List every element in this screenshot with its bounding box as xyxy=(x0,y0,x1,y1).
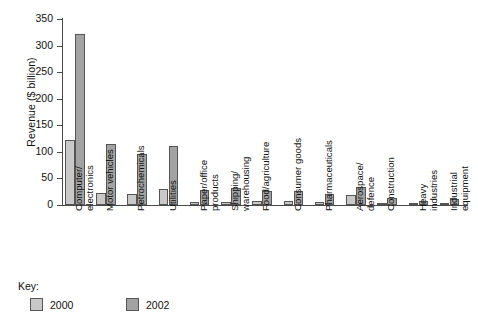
legend-entry-2002: 2002 xyxy=(126,298,169,311)
legend-entry-2000: 2000 xyxy=(30,298,73,311)
y-axis-tick-250: 250 xyxy=(57,72,62,73)
y-axis-tick-label: 0 xyxy=(47,198,53,210)
y-axis-tick-label: 100 xyxy=(35,145,53,157)
category-label-line2: equipment xyxy=(459,166,470,211)
category-label-line1: Shipping/ xyxy=(229,171,240,211)
category-label-10: Construction xyxy=(386,157,397,211)
y-axis-tick-150: 150 xyxy=(57,125,62,126)
y-axis-tick-label: 150 xyxy=(35,118,53,130)
category-label-3: Utilities xyxy=(168,180,179,211)
category-label-line1: Consumer goods xyxy=(292,138,303,211)
category-label-6: Food/agriculture xyxy=(261,142,272,211)
category-label-line1: Food/agriculture xyxy=(260,142,271,211)
category-label-line2: defence xyxy=(366,162,377,211)
category-label-11: Heavyindustries xyxy=(418,170,439,211)
category-label-8: Pharmaceuticals xyxy=(324,140,335,211)
category-label-12: Industrialequipment xyxy=(449,166,470,211)
legend-title: Key: xyxy=(18,280,39,292)
y-axis-tick-label: 350 xyxy=(35,12,53,24)
category-label-line2: industries xyxy=(428,170,439,211)
category-label-line1: Aerospace/ xyxy=(354,162,365,211)
y-axis-tick-100: 100 xyxy=(57,152,62,153)
category-label-2: Petrochemicals xyxy=(136,145,147,211)
legend-label: 2002 xyxy=(146,299,169,311)
legend-label: 2000 xyxy=(50,299,73,311)
y-axis-line xyxy=(62,18,63,206)
category-label-line1: Paper/office xyxy=(198,160,209,211)
y-axis-tick-0: 0 xyxy=(57,205,62,206)
y-axis-tick-350: 350 xyxy=(57,19,62,20)
category-label-line1: Pharmaceuticals xyxy=(323,140,334,211)
y-axis-tick-300: 300 xyxy=(57,46,62,47)
dark-gray-swatch xyxy=(126,298,139,311)
category-label-line1: Construction xyxy=(385,157,396,211)
y-axis-tick-label: 200 xyxy=(35,92,53,104)
category-label-line1: Industrial xyxy=(448,172,459,211)
category-label-9: Aerospace/defence xyxy=(355,162,376,211)
category-label-line2: products xyxy=(209,160,220,211)
category-label-line1: Petrochemicals xyxy=(135,145,146,211)
category-label-line2: warehousing xyxy=(241,157,252,211)
category-label-0: Computer/electronics xyxy=(74,165,95,211)
category-label-4: Paper/officeproducts xyxy=(199,160,220,211)
revenue-bar-chart-figure: Revenue ($ billion) 05010015020025030035… xyxy=(0,0,478,332)
y-axis-tick-200: 200 xyxy=(57,99,62,100)
y-axis-tick-label: 250 xyxy=(35,65,53,77)
category-label-1: Motor vehicles xyxy=(105,149,116,211)
category-label-7: Consumer goods xyxy=(293,138,304,211)
light-gray-swatch xyxy=(30,298,43,311)
y-axis-tick-50: 50 xyxy=(57,178,62,179)
category-label-line2: electronics xyxy=(85,165,96,211)
category-label-line1: Computer/ xyxy=(73,166,84,211)
y-axis-tick-label: 50 xyxy=(41,171,53,183)
y-axis-tick-label: 300 xyxy=(35,39,53,51)
category-label-line1: Utilities xyxy=(167,180,178,211)
category-label-line1: Heavy xyxy=(417,184,428,211)
category-label-5: Shipping/warehousing xyxy=(230,157,251,211)
category-label-line1: Motor vehicles xyxy=(104,149,115,211)
